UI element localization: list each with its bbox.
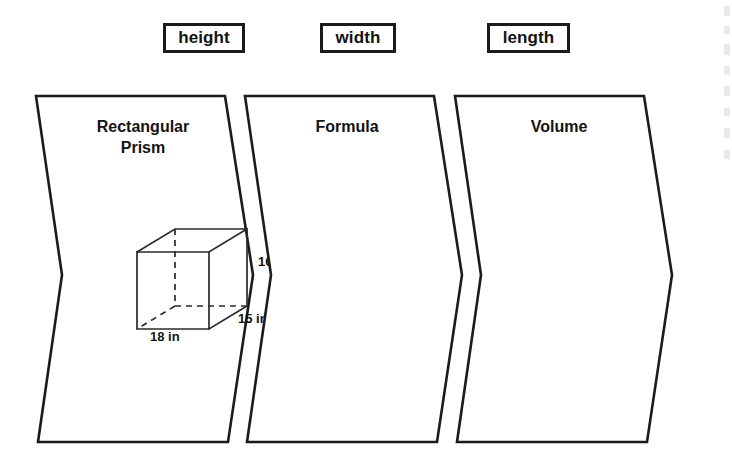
term-box-length[interactable]: length	[487, 23, 570, 53]
chevron-shape-icon	[449, 94, 699, 444]
term-box-label: width	[336, 28, 381, 48]
scan-artifact-strip	[720, 0, 732, 463]
chevron-panel-volume[interactable]: Volume	[449, 94, 699, 444]
panel-heading: Rectangular Prism	[48, 116, 238, 158]
panel-heading: Volume	[464, 116, 654, 137]
term-box-width[interactable]: width	[320, 23, 396, 53]
term-box-height[interactable]: height	[163, 23, 245, 53]
panel-heading: Formula	[252, 116, 442, 137]
dimension-label-length: 18 in	[150, 329, 180, 344]
term-box-label: height	[178, 28, 230, 48]
worksheet-page: height width length Rectangular Prism 16…	[0, 0, 732, 463]
term-box-label: length	[503, 28, 555, 48]
